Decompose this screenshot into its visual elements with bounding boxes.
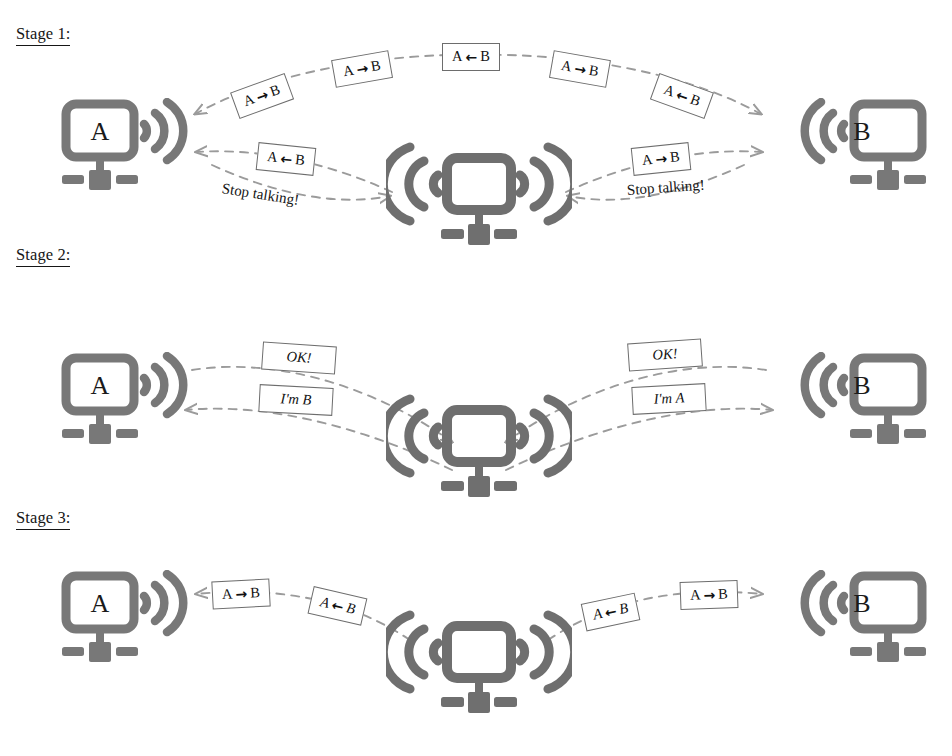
stage2-device-a-letter: A bbox=[74, 367, 126, 405]
stage3-msg-left-inner-b: B bbox=[250, 585, 260, 600]
stage2-msg-left-upper: OK! bbox=[261, 341, 337, 374]
stage3-msg-left-inner: A → B bbox=[211, 579, 270, 609]
stage2-msg-right-upper: OK! bbox=[627, 338, 703, 371]
stage1-msg-right-lower-arrow-icon: → bbox=[652, 151, 671, 167]
stage3-router bbox=[383, 615, 574, 713]
stage1-msg-right-lower-b: B bbox=[669, 149, 680, 164]
stage-2-heading-text: Stage 2: bbox=[16, 245, 70, 267]
stage3-msg-right-inner-b: B bbox=[718, 586, 728, 601]
stage3-device-a-letter: A bbox=[74, 585, 126, 623]
stage1-msg-3-b: B bbox=[480, 49, 490, 64]
stage3-msg-right-inner-a: A bbox=[690, 587, 701, 602]
stage3-msg-left-outer-arrow-icon: ← bbox=[328, 597, 348, 615]
stage3-msg-right-inner: A → B bbox=[680, 580, 739, 610]
stage2-device-b-letter: B bbox=[836, 367, 888, 405]
diagram-canvas: A B A B A B Stage 1: Stage 2: Stage 3: A… bbox=[0, 0, 952, 756]
stage-1-heading: Stage 1: bbox=[16, 24, 70, 46]
stage3-msg-right-outer-arrow-icon: ← bbox=[601, 603, 621, 620]
stage3-msg-left-inner-arrow-icon: → bbox=[232, 586, 250, 601]
stage1-msg-2-arrow-icon: → bbox=[352, 60, 372, 77]
stage-2-heading: Stage 2: bbox=[16, 245, 70, 267]
stage3-msg-left-inner-a: A bbox=[222, 586, 233, 601]
stage3-device-b-letter: B bbox=[836, 585, 888, 623]
stage1-msg-3-a: A bbox=[452, 49, 462, 64]
stage1-device-a-letter: A bbox=[74, 113, 126, 151]
stage-3-heading: Stage 3: bbox=[16, 508, 70, 530]
stage1-device-b-letter: B bbox=[836, 113, 888, 151]
stage-3-heading-text: Stage 3: bbox=[16, 508, 70, 530]
stage3-msg-right-inner-arrow-icon: → bbox=[700, 587, 718, 602]
stage1-msg-left-lower-arrow-icon: ← bbox=[277, 151, 296, 167]
stage2-msg-right-lower: I'm A bbox=[631, 383, 706, 414]
stage-1-heading-text: Stage 1: bbox=[16, 24, 70, 46]
stage1-msg-left-lower: A ← B bbox=[256, 142, 316, 175]
stage1-msg-3-arrow-icon: ← bbox=[462, 50, 480, 64]
stage1-msg-4-arrow-icon: → bbox=[570, 60, 590, 77]
stage1-arc-top-right bbox=[478, 55, 761, 114]
stage2-router bbox=[383, 399, 574, 497]
stage1-router bbox=[383, 147, 574, 245]
stage1-msg-3: A ← B bbox=[442, 43, 500, 71]
diagram-vector-layer bbox=[0, 0, 952, 756]
stage2-msg-left-lower: I'm B bbox=[258, 384, 333, 415]
stage1-msg-left-lower-b: B bbox=[294, 152, 305, 167]
